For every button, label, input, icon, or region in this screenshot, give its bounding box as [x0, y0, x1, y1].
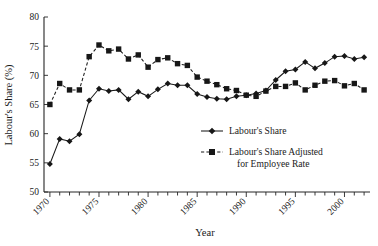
data-point [47, 102, 52, 107]
y-tick-label-50: 50 [30, 187, 40, 197]
data-point [273, 84, 278, 89]
legend-label-line2: for Employee Rate [237, 158, 309, 169]
data-point [165, 55, 170, 60]
data-point [253, 94, 258, 99]
y-tick-label-70: 70 [30, 71, 40, 81]
data-point [263, 88, 268, 93]
data-point [96, 42, 101, 47]
data-point [116, 46, 121, 51]
legend-label: Labour's Share [229, 125, 286, 136]
data-point [155, 57, 160, 62]
y-tick-label-80: 80 [30, 12, 40, 22]
data-point [145, 64, 150, 69]
data-point [283, 84, 288, 89]
data-point [312, 83, 317, 88]
legend-label: Labour's Share Adjusted [229, 146, 323, 157]
data-point [234, 88, 239, 93]
y-tick-label-75: 75 [30, 42, 40, 52]
data-point [342, 83, 347, 88]
data-point [126, 56, 131, 61]
data-point [57, 81, 62, 86]
data-point [86, 54, 91, 59]
data-point [67, 87, 72, 92]
data-point [322, 78, 327, 83]
data-point [106, 48, 111, 53]
chart-figure: 50556065707580 1970197519801985199019952… [0, 0, 378, 246]
data-point [352, 81, 357, 86]
legend-marker [209, 149, 215, 155]
data-point [185, 63, 190, 68]
x-axis-title: Year [195, 227, 215, 238]
data-point [194, 74, 199, 79]
data-point [175, 61, 180, 66]
data-point [224, 86, 229, 91]
y-tick-label-60: 60 [30, 129, 40, 139]
y-tick-label-65: 65 [30, 100, 40, 110]
data-point [293, 80, 298, 85]
data-point [361, 87, 366, 92]
data-point [302, 87, 307, 92]
data-point [136, 52, 141, 57]
labour-share-line-chart: 50556065707580 1970197519801985199019952… [0, 0, 378, 246]
data-point [204, 78, 209, 83]
y-axis-title: Labour's Share (%) [3, 64, 15, 146]
data-point [244, 92, 249, 97]
data-point [332, 78, 337, 83]
data-point [214, 82, 219, 87]
data-point [77, 87, 82, 92]
y-tick-label-55: 55 [30, 158, 40, 168]
